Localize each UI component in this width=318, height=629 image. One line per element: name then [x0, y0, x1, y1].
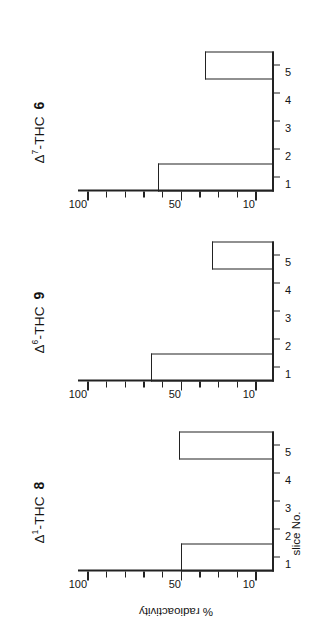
y-axis-tick-label: 10 [243, 198, 255, 210]
x-axis-tick [274, 444, 280, 445]
x-axis-tick [274, 254, 280, 255]
y-axis-tick-label: 100 [69, 198, 87, 210]
x-axis-tick [274, 64, 280, 65]
panel-title-text: Δ [32, 154, 47, 163]
compound-number: 9 [31, 291, 47, 299]
x-axis-tick-label: 3 [285, 121, 291, 133]
y-axis-tick [218, 571, 219, 577]
chart-panel: Δ1-THC8100501012345 [0, 417, 318, 607]
y-axis-tick: 50 [181, 191, 183, 200]
y-axis-tick [199, 381, 200, 387]
y-axis-title: % radioactivity [139, 605, 213, 617]
y-axis-tick: 50 [181, 571, 183, 580]
y-axis-tick-label: 50 [168, 198, 180, 210]
y-axis-tick [237, 571, 238, 577]
y-axis-tick [162, 191, 163, 197]
x-axis-tick-label: 2 [285, 339, 291, 351]
bar [181, 543, 274, 571]
bar [205, 51, 274, 79]
x-axis-tick [274, 338, 280, 339]
y-axis-tick [125, 381, 126, 387]
chart-panel: Δ7-THC6100501012345 [0, 37, 318, 227]
figure-stage: Δ1-THC8100501012345Δ6-THC9100501012345Δ7… [0, 0, 318, 629]
y-axis-tick [218, 381, 219, 387]
x-axis-tick [274, 500, 280, 501]
x-axis-tick [274, 176, 280, 177]
panel-title: Δ7-THC6 [30, 37, 47, 227]
y-axis-tick-label: 50 [168, 578, 180, 590]
y-axis-tick [143, 571, 144, 577]
chart-panel: Δ6-THC9100501012345 [0, 227, 318, 417]
x-axis-tick-label: 5 [285, 255, 291, 267]
y-axis-tick [199, 191, 200, 197]
x-axis-tick-label: 1 [285, 177, 291, 189]
y-axis-tick [106, 191, 107, 197]
y-axis-tick-label: 100 [69, 388, 87, 400]
y-axis-tick [143, 191, 144, 197]
panel-title-suffix: -THC [32, 496, 47, 529]
x-axis-tick-label: 4 [285, 93, 291, 105]
y-axis-tick-label: 100 [69, 578, 87, 590]
y-axis-tick: 50 [181, 381, 183, 390]
y-axis-tick [199, 571, 200, 577]
plot-area: 100501012345 [78, 431, 274, 571]
plot-area: 100501012345 [78, 241, 274, 381]
x-axis-tick [274, 366, 280, 367]
panel-title-superscript: 6 [30, 339, 40, 344]
panel-title-suffix: -THC [32, 306, 47, 339]
x-axis-tick-label: 1 [285, 557, 291, 569]
panel-title: Δ1-THC8 [30, 417, 47, 607]
bar [158, 163, 274, 191]
y-axis-tick-label: 50 [168, 388, 180, 400]
x-axis-tick-label: 1 [285, 367, 291, 379]
y-axis-tick [106, 571, 107, 577]
x-axis-tick-label: 5 [285, 65, 291, 77]
panel-title-text: Δ [32, 534, 47, 543]
x-axis-tick [274, 556, 280, 557]
x-axis-tick [274, 528, 280, 529]
x-axis-tick-label: 3 [285, 311, 291, 323]
compound-number: 6 [31, 101, 47, 109]
y-axis-tick [237, 191, 238, 197]
x-axis-tick [274, 310, 280, 311]
compound-number: 8 [31, 481, 47, 489]
x-axis-tick-label: 2 [285, 149, 291, 161]
y-axis-tick [237, 381, 238, 387]
x-axis-tick [274, 472, 280, 473]
x-axis-tick [274, 120, 280, 121]
panel-title-suffix: -THC [32, 116, 47, 149]
bar [151, 353, 274, 381]
panel-title-text: Δ [32, 344, 47, 353]
y-axis-tick: 10 [255, 571, 257, 580]
y-axis-tick: 100 [87, 191, 89, 200]
y-axis-tick: 100 [87, 571, 89, 580]
bar [212, 241, 274, 269]
x-axis-tick [274, 148, 280, 149]
y-axis-tick [162, 571, 163, 577]
y-axis-tick: 10 [255, 381, 257, 390]
y-axis-tick [106, 381, 107, 387]
bar [179, 431, 274, 459]
y-axis-tick: 100 [87, 381, 89, 390]
x-axis-tick [274, 92, 280, 93]
y-axis-tick-label: 10 [243, 578, 255, 590]
x-axis-tick-label: 5 [285, 445, 291, 457]
y-axis-tick [218, 191, 219, 197]
y-axis-tick [143, 381, 144, 387]
y-axis-tick [125, 571, 126, 577]
y-axis-tick-label: 10 [243, 388, 255, 400]
y-axis-tick: 10 [255, 191, 257, 200]
panel-title: Δ6-THC9 [30, 227, 47, 417]
x-axis-tick-label: 4 [285, 473, 291, 485]
y-axis-tick [162, 381, 163, 387]
x-axis-tick [274, 282, 280, 283]
y-axis-tick [125, 191, 126, 197]
panel-title-superscript: 7 [30, 149, 40, 154]
panel-title-superscript: 1 [30, 529, 40, 534]
panel-container: Δ1-THC8100501012345Δ6-THC9100501012345Δ7… [0, 0, 318, 629]
x-axis-tick-label: 4 [285, 283, 291, 295]
plot-area: 100501012345 [78, 51, 274, 191]
x-axis-title: slice No. [290, 511, 302, 555]
